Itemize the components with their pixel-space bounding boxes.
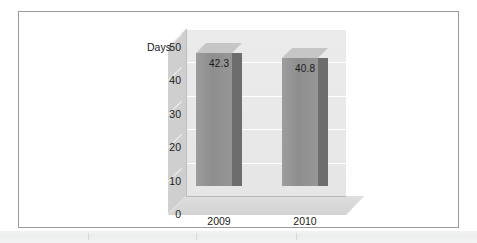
screenshot-root: 42.3 40.8 Days 50 40 30 20 10 0 2009 201…: [0, 0, 477, 243]
bar-2010-top: [282, 48, 328, 58]
bar-2009[interactable]: [196, 12, 242, 196]
bar-2009-value-label: 42.3: [209, 58, 229, 69]
chart-floor-front: [168, 196, 364, 215]
bar-2009-top: [196, 43, 242, 53]
y-tick-10: 10: [159, 175, 181, 187]
bar-chart-3d: 42.3 40.8 Days 50 40 30 20 10 0 2009 201…: [19, 12, 460, 229]
x-tick-2009: 2009: [189, 215, 249, 227]
chart-frame: 42.3 40.8 Days 50 40 30 20 10 0 2009 201…: [18, 11, 459, 228]
bar-2010-value-label: 40.8: [295, 63, 315, 74]
bar-2009-front: [196, 53, 232, 186]
x-axis-line: [186, 196, 346, 197]
y-tick-30: 30: [159, 108, 181, 120]
bar-2010-side: [318, 58, 328, 186]
bar-2010[interactable]: [282, 12, 328, 196]
y-tick-40: 40: [159, 74, 181, 86]
scan-artifact-tick: [296, 233, 297, 240]
y-tick-50: 50: [159, 41, 181, 53]
x-tick-2010: 2010: [275, 215, 335, 227]
y-tick-0: 0: [159, 208, 181, 220]
bar-2010-front: [282, 58, 318, 186]
scan-artifact-band: [0, 231, 477, 243]
scan-artifact-tick: [88, 233, 89, 240]
y-axis-line: [186, 29, 187, 197]
bar-2009-side: [232, 53, 242, 186]
scan-artifact-tick: [196, 233, 197, 240]
y-tick-20: 20: [159, 141, 181, 153]
